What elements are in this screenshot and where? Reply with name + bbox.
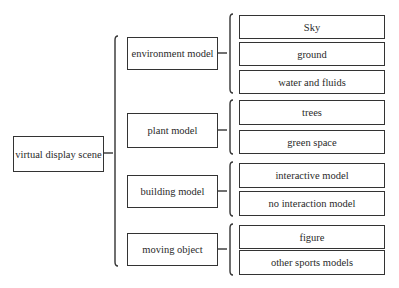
category-label: environment model <box>132 48 214 59</box>
leaf-box-water: water and fluids <box>239 70 385 94</box>
leaf-box-interactive: interactive model <box>239 163 385 188</box>
category-box-building: building model <box>127 175 218 208</box>
category-label: building model <box>141 186 205 197</box>
leaf-label: ground <box>297 49 327 60</box>
leaf-label: water and fluids <box>278 77 346 88</box>
root-node-box: virtual display scene <box>13 136 104 172</box>
leaf-label: no interaction model <box>269 198 356 209</box>
leaf-label: green space <box>287 137 336 148</box>
category-label: moving object <box>142 244 202 255</box>
leaf-label: interactive model <box>275 170 348 181</box>
category-box-environment: environment model <box>127 37 218 70</box>
leaf-box-ground: ground <box>239 42 385 66</box>
leaf-label: trees <box>302 107 322 118</box>
category-box-moving: moving object <box>127 233 218 266</box>
leaf-label: figure <box>299 232 324 243</box>
leaf-box-no-interaction: no interaction model <box>239 191 385 216</box>
leaf-box-green-space: green space <box>239 130 385 154</box>
leaf-label: other sports models <box>271 257 353 268</box>
category-label: plant model <box>148 125 198 136</box>
leaf-box-figure: figure <box>239 225 385 249</box>
leaf-label: Sky <box>304 22 320 33</box>
leaf-box-other-sports: other sports models <box>239 250 385 275</box>
leaf-box-trees: trees <box>239 100 385 125</box>
root-node-label: virtual display scene <box>15 149 101 160</box>
category-box-plant: plant model <box>127 113 218 148</box>
leaf-box-sky: Sky <box>239 15 385 39</box>
